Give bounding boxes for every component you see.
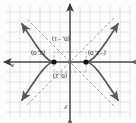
- label-point-2-0: (2, 0): [31, 49, 45, 56]
- x-axis-label: x: [11, 62, 14, 69]
- label-point-0-1: (0, 1): [53, 72, 67, 79]
- y-axis-label: y: [64, 104, 67, 111]
- label-point-neg2-0: (−2, 0): [88, 49, 106, 56]
- hyperbola-graph-figure: (0, −1) (2, 0) (−2, 0) (0, 1) x y: [0, 0, 136, 123]
- label-point-0-neg1: (0, −1): [52, 35, 70, 42]
- rotated-plot-container: [0, 0, 136, 123]
- vertex-point-left: [83, 59, 88, 64]
- vertex-point-right: [51, 59, 56, 64]
- plot-canvas: [0, 0, 136, 123]
